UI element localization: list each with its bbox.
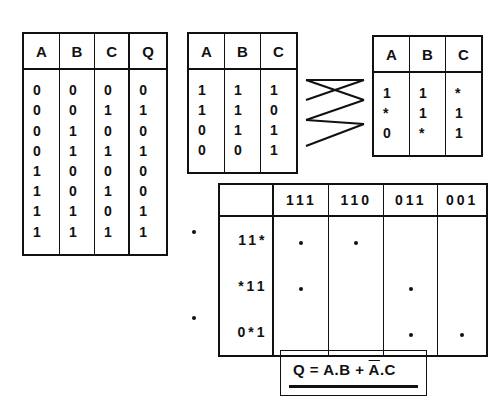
table-cell: 0 — [188, 140, 225, 173]
table-row: 011 — [188, 120, 297, 140]
table-cell: 0 — [59, 181, 94, 201]
chart-cell — [384, 263, 438, 309]
table-cell: 1 — [261, 140, 298, 173]
table-row: 111 — [188, 69, 297, 100]
table-row: 1101 — [23, 201, 167, 221]
table-cell: * — [446, 72, 483, 103]
grouping-lines — [300, 75, 372, 155]
implicant-table: A B C 11**110*1 — [372, 35, 483, 157]
implicant-table-header-a: A — [373, 36, 410, 72]
implicant-table-body: 11**110*1 — [373, 72, 482, 156]
formula-underline — [289, 385, 418, 388]
formula-lhs: Q — [293, 361, 305, 378]
chart-cell — [438, 216, 487, 263]
table-row: 110 — [188, 100, 297, 120]
table-cell: 0 — [129, 69, 167, 100]
table-row: 0111 — [23, 141, 167, 161]
table-cell: 1 — [410, 103, 446, 123]
chart-row: 0*1 — [219, 309, 487, 356]
table-cell: 1 — [59, 201, 94, 221]
table-cell: 0 — [23, 69, 59, 100]
result-formula-box: Q = A.B + A.C — [280, 350, 427, 396]
coverage-dot-icon — [409, 287, 413, 291]
truth-table-header-b: B — [59, 33, 94, 69]
chart-column-011: 011 — [384, 184, 438, 216]
table-cell: 0 — [225, 140, 261, 173]
table-cell: 1 — [410, 72, 446, 103]
table-cell: 1 — [23, 181, 59, 201]
table-cell: * — [410, 123, 446, 156]
table-cell: 1 — [23, 222, 59, 255]
table-cell: 0 — [23, 121, 59, 141]
table-cell: 1 — [188, 100, 225, 120]
table-row: 0000 — [23, 69, 167, 100]
essential-marker-icon — [192, 230, 196, 234]
table-cell: 1 — [59, 141, 94, 161]
table-cell: 1 — [129, 100, 167, 120]
table-cell: 1 — [94, 222, 129, 255]
table-cell: 1 — [261, 120, 298, 140]
table-row: 1010 — [23, 181, 167, 201]
truth-table-body: 00000011010001111000101011011111 — [23, 69, 167, 255]
formula-term-2-rest: .C — [380, 361, 396, 378]
table-cell: 0 — [94, 121, 129, 141]
result-formula: Q = A.B + A.C — [293, 361, 396, 378]
table-cell: 0 — [129, 181, 167, 201]
chart-corner-cell — [219, 184, 273, 216]
coverage-dot-icon — [299, 287, 303, 291]
chart-cell — [384, 309, 438, 356]
chart-cell — [273, 216, 328, 263]
table-row: *11 — [373, 103, 482, 123]
table-cell: 0 — [23, 100, 59, 120]
coverage-dot-icon — [354, 241, 358, 245]
table-cell: 0 — [261, 100, 298, 120]
table-row: 0100 — [23, 121, 167, 141]
table-cell: 1 — [129, 201, 167, 221]
chart-column-111: 111 — [273, 184, 328, 216]
chart-cell — [273, 263, 328, 309]
minterm-table-header-b: B — [225, 33, 261, 69]
chart-row-label: *11 — [219, 263, 273, 309]
table-cell: * — [373, 103, 410, 123]
minterm-table-header-c: C — [261, 33, 298, 69]
table-cell: 1 — [225, 120, 261, 140]
table-cell: 0 — [94, 69, 129, 100]
table-cell: 0 — [59, 69, 94, 100]
table-cell: 0 — [59, 100, 94, 120]
table-cell: 1 — [94, 181, 129, 201]
table-cell: 1 — [225, 100, 261, 120]
formula-plus: + — [351, 361, 369, 378]
table-cell: 0 — [59, 161, 94, 181]
implicant-table-header-c: C — [446, 36, 483, 72]
table-cell: 1 — [94, 141, 129, 161]
chart-row: *11 — [219, 263, 487, 309]
table-row: 001 — [188, 140, 297, 173]
chart-cell — [329, 309, 384, 356]
chart-cell — [438, 263, 487, 309]
chart-cell — [329, 216, 384, 263]
table-cell: 1 — [23, 161, 59, 181]
table-row: 11* — [373, 72, 482, 103]
table-cell: 1 — [59, 222, 94, 255]
table-cell: 1 — [129, 222, 167, 255]
chart-column-001: 001 — [438, 184, 487, 216]
truth-table-header-q: Q — [129, 33, 167, 69]
chart-column-110: 110 — [329, 184, 384, 216]
minterm-table: A B C 111110011001 — [187, 32, 298, 174]
essential-marker-icon — [192, 316, 196, 320]
table-row: 0011 — [23, 100, 167, 120]
table-cell: 1 — [188, 69, 225, 100]
table-row: 1000 — [23, 161, 167, 181]
chart-cell — [273, 309, 328, 356]
table-cell: 1 — [446, 123, 483, 156]
formula-term-2-negated: A — [369, 361, 380, 378]
table-row: 0*1 — [373, 123, 482, 156]
table-cell: 0 — [129, 161, 167, 181]
truth-table-header-c: C — [94, 33, 129, 69]
chart-cell — [438, 309, 487, 356]
chart-cell — [384, 216, 438, 263]
table-cell: 0 — [373, 123, 410, 156]
prime-implicant-chart: 111 110 011 001 11**110*1 — [218, 183, 488, 357]
coverage-dot-icon — [460, 333, 464, 337]
chart-row: 11* — [219, 216, 487, 263]
